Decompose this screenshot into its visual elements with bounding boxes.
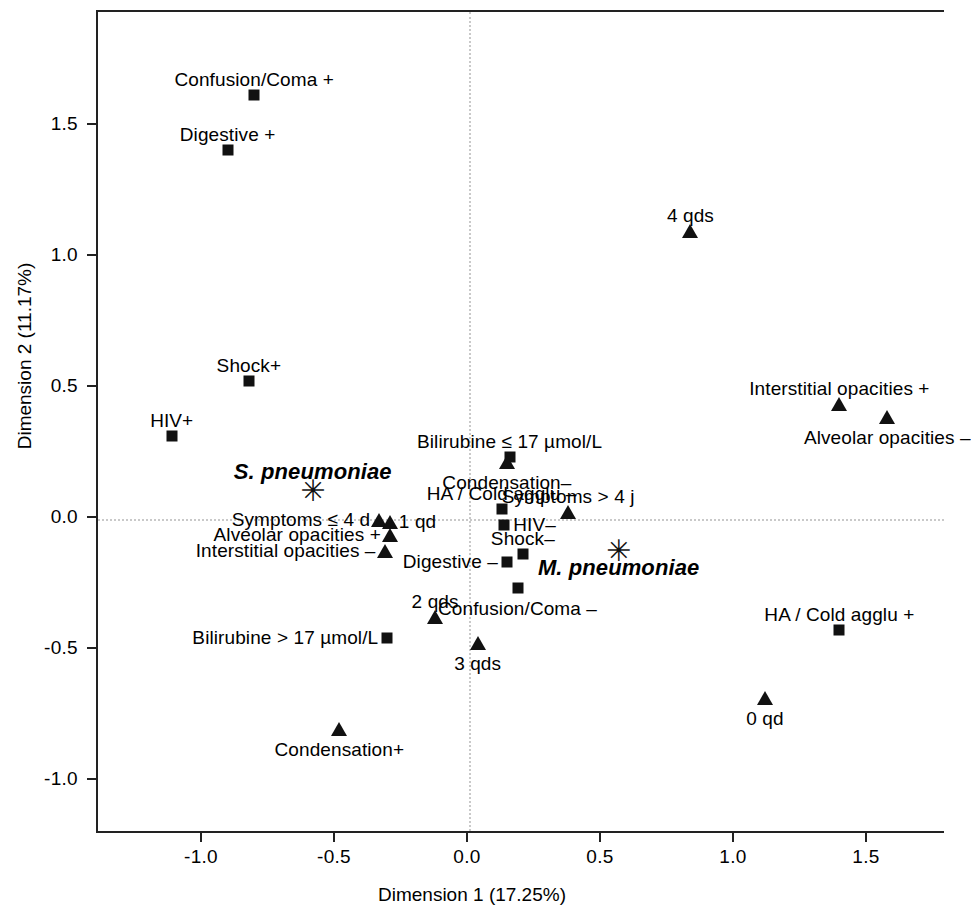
- data-point-label: Digestive –: [403, 552, 498, 571]
- y-axis-tick-label: 1.0: [51, 244, 78, 266]
- data-point-marker-triangle: [382, 528, 398, 542]
- data-point-marker-triangle: [499, 455, 515, 469]
- data-point-marker-square: [501, 556, 512, 567]
- x-axis-tick: [200, 833, 202, 842]
- data-point-marker-square: [834, 624, 845, 635]
- data-point-label: Confusion/Coma –: [438, 599, 597, 618]
- data-point-label: Bilirubine > 17 µmol/L: [192, 628, 378, 647]
- data-point-marker-square: [243, 375, 254, 386]
- y-axis-tick-label: 0.5: [51, 375, 78, 397]
- data-point-marker-square: [382, 632, 393, 643]
- data-point-marker-triangle: [377, 544, 393, 558]
- data-point-label: Bilirubine ≤ 17 µmol/L: [417, 432, 602, 451]
- data-point-marker-triangle: [757, 691, 773, 705]
- y-axis-tick: [87, 385, 96, 387]
- x-axis-tick-label: -0.5: [317, 846, 351, 868]
- data-point-marker-triangle: [682, 224, 698, 238]
- y-axis-title: Dimension 2 (11.17%): [14, 206, 36, 506]
- x-axis-tick-label: -1.0: [184, 846, 218, 868]
- data-point-marker-triangle: [427, 610, 443, 624]
- x-axis-tick-label: 0.0: [453, 846, 480, 868]
- data-point-label: 3 qds: [454, 654, 501, 673]
- data-point-label: Interstitial opacities +: [749, 379, 929, 398]
- data-point-marker-triangle: [331, 722, 347, 736]
- data-point-label: 0 qd: [746, 709, 783, 728]
- data-point-label: Shock–: [491, 529, 555, 548]
- data-point-label: Shock+: [217, 356, 282, 375]
- y-axis-tick: [87, 778, 96, 780]
- data-point-label: Interstitial opacities –: [196, 541, 376, 560]
- data-point-marker-triangle: [879, 410, 895, 424]
- x-axis-tick-label: 1.0: [719, 846, 746, 868]
- reference-line-vertical: [469, 12, 471, 831]
- x-axis-tick: [333, 833, 335, 842]
- y-axis-tick-label: -0.5: [44, 637, 78, 659]
- x-axis-tick: [599, 833, 601, 842]
- data-point-marker-square: [512, 582, 523, 593]
- data-point-label: 4 qds: [667, 206, 714, 225]
- y-axis-tick-label: -1.0: [44, 768, 78, 790]
- x-axis-tick: [865, 833, 867, 842]
- data-point-marker-triangle: [831, 397, 847, 411]
- y-axis-tick: [87, 516, 96, 518]
- data-point-label: HIV+: [150, 411, 193, 430]
- x-axis-tick-label: 0.5: [586, 846, 613, 868]
- data-point-marker-triangle: [382, 515, 398, 529]
- data-point-marker-square: [517, 548, 528, 559]
- data-point-marker-triangle: [470, 636, 486, 650]
- data-point-marker-square: [249, 90, 260, 101]
- data-point-label: Confusion/Coma +: [174, 70, 334, 89]
- x-axis-title: Dimension 1 (17.25%): [0, 884, 944, 906]
- data-point-marker-square: [222, 145, 233, 156]
- data-point-label: HA / Cold agglu +: [764, 605, 914, 624]
- data-point-label: 1 qd: [399, 512, 436, 531]
- data-point-label: Alveolar opacities –: [804, 428, 971, 447]
- data-point-marker-triangle: [560, 505, 576, 519]
- y-axis-tick: [87, 254, 96, 256]
- y-axis-tick-label: 0.0: [51, 506, 78, 528]
- data-point-label: M. pneumoniae: [538, 557, 699, 579]
- x-axis-tick: [466, 833, 468, 842]
- data-point-label: 2 qds: [412, 592, 459, 611]
- y-axis-tick: [87, 123, 96, 125]
- x-axis-tick-label: 1.5: [852, 846, 879, 868]
- data-point-label: Symptoms > 4 j: [502, 487, 635, 506]
- data-point-label: S. pneumoniae: [234, 461, 392, 483]
- data-point-label: Condensation+: [274, 740, 404, 759]
- x-axis-tick: [732, 833, 734, 842]
- data-point-label: Digestive +: [180, 125, 276, 144]
- y-axis-tick-label: 1.5: [51, 113, 78, 135]
- y-axis-tick: [87, 647, 96, 649]
- data-point-marker-square: [166, 430, 177, 441]
